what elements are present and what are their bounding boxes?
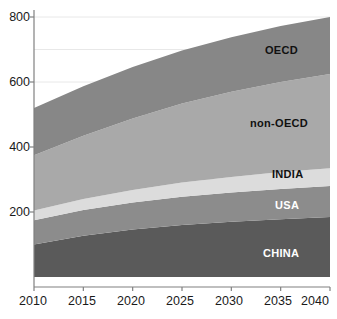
y-tick-400: 400 (0, 140, 30, 154)
series-label-india: INDIA (272, 168, 303, 180)
x-tick-2030: 2030 (209, 294, 249, 308)
y-tick-600: 600 (0, 75, 30, 89)
series-label-usa: USA (275, 199, 299, 211)
series-label-oecd: OECD (265, 44, 298, 56)
stacked-area-chart: 800 600 400 200 2010 2015 2020 2025 2030… (0, 0, 337, 319)
series-label-china: CHINA (263, 247, 299, 259)
x-tick-2040: 2040 (295, 294, 335, 308)
x-tick-2015: 2015 (62, 294, 102, 308)
x-tick-2010: 2010 (13, 294, 53, 308)
x-tick-2035: 2035 (258, 294, 298, 308)
y-tick-800: 800 (0, 10, 30, 24)
area-series-group (34, 17, 330, 277)
series-label-non-oecd: non-OECD (250, 117, 308, 129)
y-tick-200: 200 (0, 205, 30, 219)
x-tick-2020: 2020 (111, 294, 151, 308)
x-tick-2025: 2025 (160, 294, 200, 308)
